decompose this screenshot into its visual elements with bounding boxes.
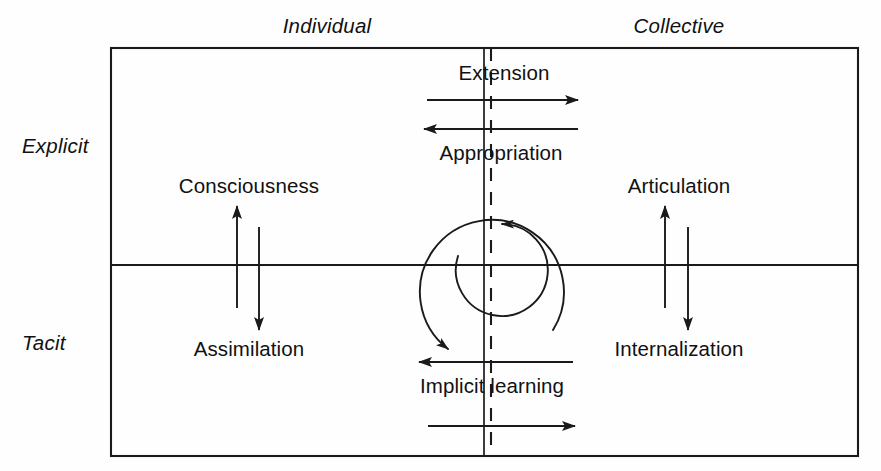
- axis-label-tacit: Tacit: [22, 333, 66, 354]
- axis-label-collective: Collective: [634, 16, 725, 37]
- spiral-outer-arc: [420, 220, 564, 349]
- flow-label-assimilation: Assimilation: [194, 339, 305, 360]
- flow-label-appropriation: Appropriation: [439, 143, 562, 164]
- axis-label-explicit: Explicit: [22, 136, 89, 157]
- figure-canvas: Individual Collective Explicit Tacit Ext…: [0, 0, 881, 471]
- axis-label-individual: Individual: [283, 16, 372, 37]
- flow-label-extension: Extension: [459, 63, 550, 84]
- flow-label-implicit-learning: Implicit learning: [420, 376, 564, 397]
- flow-label-consciousness: Consciousness: [179, 176, 319, 197]
- diagram-vector-layer: [0, 0, 881, 471]
- flow-label-internalization: Internalization: [614, 339, 743, 360]
- flow-label-articulation: Articulation: [628, 176, 731, 197]
- knowledge-spiral: [420, 220, 564, 349]
- spiral-inner-arc: [456, 224, 548, 316]
